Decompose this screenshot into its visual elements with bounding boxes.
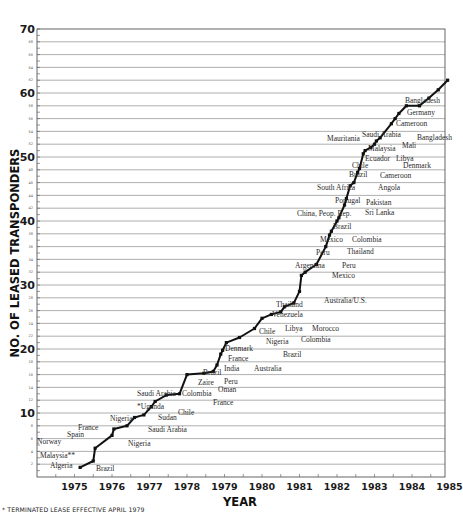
svg-text:42: 42 <box>29 206 33 210</box>
country-label: South Africa <box>317 183 356 192</box>
country-label: Mali <box>402 141 416 150</box>
y-axis-title: NO. OF LEASED TRANSPONDERS <box>8 149 22 358</box>
x-tick-label: 1977 <box>136 481 162 492</box>
country-label: Chile <box>259 327 276 336</box>
country-label: Brazil <box>349 170 367 179</box>
country-label: Ecuador <box>365 154 390 163</box>
svg-text:28: 28 <box>29 296 33 300</box>
svg-text:58: 58 <box>29 104 33 108</box>
country-label: Bangladesh <box>417 133 452 142</box>
country-label: China, Peop. Rep. <box>297 209 351 218</box>
country-label: Peru <box>316 248 330 257</box>
svg-text:56: 56 <box>29 117 33 121</box>
svg-text:36: 36 <box>29 245 33 249</box>
x-tick-label: 1982 <box>324 481 350 492</box>
country-label: Norway <box>37 437 61 446</box>
y-tick-label: 70 <box>20 23 36 36</box>
x-tick-label: 1985 <box>436 481 462 492</box>
country-label: Malaysia <box>368 144 396 153</box>
x-tick-label: 1975 <box>61 481 87 492</box>
x-tick-label: 1980 <box>249 481 276 492</box>
country-label: Argentina <box>295 261 326 270</box>
country-label: Bangladesh <box>405 96 440 105</box>
country-label: Libya <box>285 324 303 333</box>
svg-text:16: 16 <box>29 373 33 377</box>
country-label: Nigeria <box>128 439 151 448</box>
svg-text:46: 46 <box>29 181 33 185</box>
country-label: India <box>224 364 240 373</box>
country-label: Cameroon <box>396 119 427 128</box>
country-label: Colombia <box>352 235 382 244</box>
svg-text:6: 6 <box>31 437 33 441</box>
country-label: Cameroon <box>380 171 411 180</box>
svg-text:62: 62 <box>29 78 33 82</box>
svg-text:2: 2 <box>31 462 33 466</box>
country-label: Australia/U.S. <box>324 296 367 305</box>
svg-text:32: 32 <box>29 270 33 274</box>
x-tick-label: 1984 <box>399 481 426 492</box>
country-label: Brazil <box>333 222 351 231</box>
y-tick-label: 40 <box>20 215 36 228</box>
country-label: France <box>228 354 249 363</box>
svg-text:4: 4 <box>31 450 34 454</box>
country-label: Chile <box>178 408 195 417</box>
svg-text:52: 52 <box>29 142 33 146</box>
country-label: Pakistan <box>366 198 392 207</box>
country-label: Brazil <box>203 368 221 377</box>
country-annotations: AlgeriaBrazilMalaysia**NorwaySpainNigeri… <box>37 79 452 473</box>
country-label: Brazil <box>283 350 301 359</box>
country-label: Colombia <box>301 335 331 344</box>
gridlines <box>37 42 445 464</box>
svg-text:14: 14 <box>29 386 34 390</box>
plot-frame <box>37 29 445 477</box>
svg-text:64: 64 <box>29 66 34 70</box>
x-tick-label: 1976 <box>99 481 126 492</box>
footnote: * TERMINATED LEASE EFFECTIVE APRIL 1979 <box>2 506 145 513</box>
country-label: France <box>213 398 234 407</box>
country-label: *Uganda <box>137 402 165 411</box>
svg-text:24: 24 <box>29 322 34 326</box>
country-label: Mauritania <box>327 134 361 143</box>
y-tick-label: 60 <box>20 87 36 100</box>
country-label: Thailand <box>347 247 374 256</box>
country-label: Mexico <box>332 271 355 280</box>
transponder-chart: 1020304050607024681214161822242628323436… <box>0 0 463 520</box>
country-label: Algeria <box>50 461 73 470</box>
country-label: Libya <box>396 154 414 163</box>
svg-text:26: 26 <box>29 309 33 313</box>
y-tick-label: 50 <box>20 151 36 164</box>
x-tick-label: 1978 <box>174 481 201 492</box>
x-axis-title: YEAR <box>222 495 257 509</box>
svg-text:68: 68 <box>29 40 33 44</box>
country-label: Oman <box>218 385 237 394</box>
country-label: Portugal <box>335 196 360 205</box>
country-label: France <box>78 423 99 432</box>
country-label: Thailand <box>276 300 303 309</box>
svg-text:18: 18 <box>29 360 33 364</box>
country-label: Mexico <box>320 235 343 244</box>
country-label: Sudan <box>158 413 177 422</box>
country-label: Nigeria <box>266 337 289 346</box>
country-label: Brazil <box>96 464 114 473</box>
country-label: Australia <box>254 364 282 373</box>
y-tick-label: 30 <box>20 279 36 292</box>
svg-text:12: 12 <box>29 398 33 402</box>
country-label: Nigeria <box>110 414 133 423</box>
country-label: Saudi Arabia <box>148 425 188 434</box>
country-label: Saudi Arabia <box>362 130 402 139</box>
svg-text:22: 22 <box>29 334 33 338</box>
country-label: Peru <box>224 377 238 386</box>
svg-text:38: 38 <box>29 232 33 236</box>
svg-text:48: 48 <box>29 168 33 172</box>
svg-text:54: 54 <box>29 130 34 134</box>
country-label: Colombia <box>182 389 212 398</box>
country-label: Peru <box>342 261 356 270</box>
country-label: Zaire <box>198 378 214 387</box>
svg-text:8: 8 <box>31 424 33 428</box>
country-label: Sri Lanka <box>365 208 395 217</box>
country-label: Angola <box>378 183 401 192</box>
svg-text:44: 44 <box>29 194 34 198</box>
country-label: Germany <box>407 108 435 117</box>
x-tick-label: 1981 <box>286 481 312 492</box>
country-label: Morocco <box>312 324 339 333</box>
